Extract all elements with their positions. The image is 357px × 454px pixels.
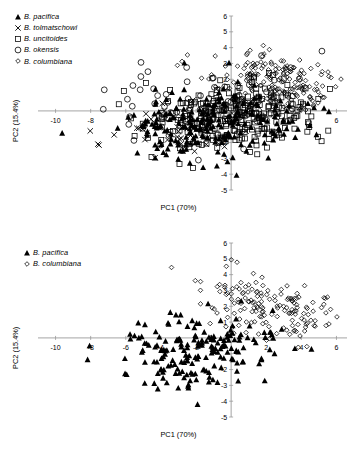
data-point [333, 84, 338, 89]
data-point [244, 330, 249, 335]
data-point [189, 109, 195, 115]
data-point [319, 48, 325, 54]
data-point [153, 329, 159, 335]
data-point [198, 302, 203, 307]
data-point [130, 83, 136, 89]
data-point [116, 102, 121, 107]
data-point [138, 74, 144, 80]
data-point [316, 62, 321, 67]
data-point [198, 279, 203, 284]
data-point [261, 283, 266, 288]
data-point [195, 401, 201, 407]
data-point [215, 311, 220, 316]
data-point [301, 311, 306, 316]
data-point [189, 318, 195, 324]
data-point [218, 78, 223, 83]
data-point [241, 345, 247, 351]
filled-triangle-icon [22, 248, 33, 258]
data-point [245, 335, 251, 341]
data-point [265, 155, 271, 161]
data-point [267, 297, 272, 302]
cross-icon [15, 25, 20, 30]
y-tick-label: 6 [223, 13, 227, 20]
data-point [251, 271, 256, 276]
data-point [176, 319, 182, 325]
data-point [134, 150, 140, 156]
data-point [326, 70, 331, 75]
data-point [115, 125, 121, 131]
data-point [242, 121, 248, 127]
data-point [181, 87, 187, 93]
x-tick-label: -10 [50, 117, 60, 124]
filled-triangle-icon [13, 12, 24, 22]
data-point [309, 66, 314, 71]
data-point [272, 294, 277, 299]
data-point [153, 86, 159, 92]
pca-panel-top: -10-86-5-4-3-223456 B. pacificaB. tolmat… [0, 0, 357, 227]
data-point [275, 314, 280, 319]
data-point [185, 96, 191, 102]
y-tick-label: -5 [221, 187, 227, 194]
x-tick-label: -6 [123, 344, 129, 351]
data-point [302, 283, 307, 288]
data-point [160, 375, 166, 381]
y-tick-label: 4 [223, 271, 227, 278]
data-point [121, 88, 126, 93]
data-point [260, 275, 265, 280]
x-tick-label: 2 [264, 344, 268, 351]
data-point [138, 60, 144, 66]
x-axis-title-bottom: PC1 (70%) [0, 430, 357, 439]
data-point [111, 132, 116, 137]
data-point [309, 346, 315, 352]
y-tick-label: -4 [221, 171, 227, 178]
data-point [239, 280, 244, 285]
legend-item-label: B. uncitoides [24, 35, 68, 42]
data-point [267, 324, 272, 329]
y-tick-label: 6 [223, 240, 227, 247]
data-point [274, 331, 279, 336]
legend-item: B. tolmatschowi [13, 22, 77, 33]
data-point [314, 81, 319, 86]
data-point [201, 329, 207, 335]
data-point [208, 321, 213, 326]
legend-item-label: B. okensis [24, 46, 59, 53]
data-point [243, 296, 248, 301]
legend-item: B. uncitoides [13, 33, 77, 44]
data-point [310, 98, 315, 103]
y-tick-label: 1 [223, 319, 227, 326]
legend-item-label: B. columbiana [24, 58, 72, 65]
data-point [181, 60, 187, 66]
data-point [266, 105, 271, 110]
legend-item: B. columbiana [13, 56, 77, 67]
data-point [195, 157, 201, 163]
data-point [175, 385, 181, 391]
data-point [205, 301, 211, 307]
data-point [175, 63, 180, 68]
data-point [192, 149, 197, 154]
open-circle-icon [15, 47, 21, 53]
data-point [232, 301, 237, 306]
open-square-icon [13, 34, 24, 44]
y-axis-title-bottom: PC2 (15.4%) [11, 327, 20, 369]
data-point [170, 357, 176, 363]
data-point [306, 312, 311, 317]
legend-bottom: B. pacificaB. columbiana [22, 247, 81, 269]
data-point [203, 354, 209, 360]
x-tick-label: 6 [335, 344, 339, 351]
data-point [142, 380, 148, 386]
data-point [259, 299, 264, 304]
open-diamond-icon [13, 56, 24, 66]
data-point [267, 112, 272, 117]
data-point [320, 84, 325, 89]
open-diamond-icon [16, 59, 21, 64]
data-point [85, 357, 91, 363]
data-point [302, 329, 307, 334]
data-point [309, 318, 314, 323]
data-point [169, 265, 174, 270]
x-axis-title-top: PC1 (70%) [0, 203, 357, 212]
data-point [293, 80, 298, 85]
data-point [163, 91, 169, 97]
data-point [163, 338, 169, 344]
data-point [206, 374, 212, 380]
legend-item-label: B. tolmatschowi [24, 24, 77, 31]
